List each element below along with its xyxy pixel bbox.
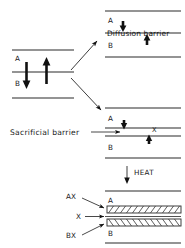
heat-label: HEAT [134, 168, 154, 177]
sacrificial-layer-a-label: A [108, 114, 113, 123]
lower-reaction-band [107, 219, 181, 226]
callout-x-label: X [76, 212, 81, 221]
diffusion-barrier-label: Diffusion barrier [107, 29, 170, 38]
reacted-layer-b-label: B [108, 229, 113, 238]
callout-bx-leader [82, 224, 104, 235]
heat-step: HEAT [124, 166, 154, 184]
diffusion-layer-a-label: A [108, 16, 113, 25]
reacted-layer-a-label: A [108, 196, 113, 205]
callout-ax-leader [82, 198, 104, 208]
diffusion-barrier-panel: A B Diffusion barrier [105, 11, 181, 57]
interdiffusion-arrow-up [43, 57, 51, 84]
initial-layer-a-label: A [15, 54, 20, 63]
initial-couple-panel: A B [12, 50, 74, 98]
initial-layer-b-label: B [15, 79, 20, 88]
callout-ax-label: AX [66, 192, 76, 201]
reacted-joint-panel: A [66, 191, 181, 243]
sacrificial-barrier-callout-label: Sacrificial barrier [10, 128, 80, 137]
callout-bx-label: BX [66, 231, 76, 240]
diffusion-layer-b-label: B [108, 41, 113, 50]
heat-arrow-down [124, 166, 130, 184]
branch-arrow-to-diffusion [71, 41, 97, 70]
figure-root: A B A B [0, 0, 185, 248]
sacrificial-interlayer-label: X [152, 126, 157, 134]
sacrificial-barrier-panel: A B X Sacrificial barrier [10, 108, 181, 158]
diagram-canvas: A B A B [0, 0, 185, 248]
interdiffusion-arrow-down [23, 62, 31, 89]
branch-arrow-to-sacrificial [71, 78, 101, 110]
upper-reaction-band [107, 206, 181, 213]
sacrificial-layer-b-label: B [108, 143, 113, 152]
